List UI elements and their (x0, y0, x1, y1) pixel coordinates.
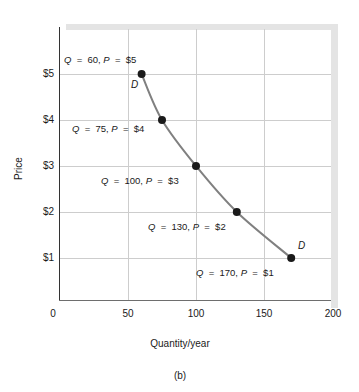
point-p-value-60: $5 (126, 54, 137, 65)
data-point-marker-q100 (192, 162, 200, 170)
point-p-value-170: $1 (263, 267, 274, 278)
data-point-marker-q170 (287, 254, 295, 262)
point-p-value-100: $3 (168, 175, 179, 186)
point-p-value-75: $4 (134, 123, 145, 134)
point-label-q60: Q = 60, P = $5 (64, 54, 136, 65)
point-label-q100: Q = 100, P = $3 (101, 175, 179, 186)
curve-tag-upper: D (131, 79, 138, 90)
point-q-value-170: 170 (220, 267, 236, 278)
data-point-markers (138, 70, 296, 262)
data-point-marker-q60 (138, 70, 146, 78)
point-p-value-130: $2 (215, 221, 226, 232)
demand-curve-plot (0, 0, 359, 392)
point-q-value-75: 75 (96, 123, 107, 134)
data-point-marker-q130 (233, 208, 241, 216)
point-label-q130: Q = 130, P = $2 (148, 221, 226, 232)
point-q-value-100: 100 (125, 175, 141, 186)
point-q-value-60: 60 (88, 54, 99, 65)
demand-curve-figure: $5 $4 $3 $2 $1 0 50 100 150 200 Price Qu… (0, 0, 359, 392)
curve-tag-lower: D (298, 240, 305, 251)
data-point-marker-q75 (158, 116, 166, 124)
point-q-value-130: 130 (172, 221, 188, 232)
point-label-q170: Q = 170, P = $1 (196, 267, 274, 278)
point-label-q75: Q = 75, P = $4 (72, 123, 144, 134)
